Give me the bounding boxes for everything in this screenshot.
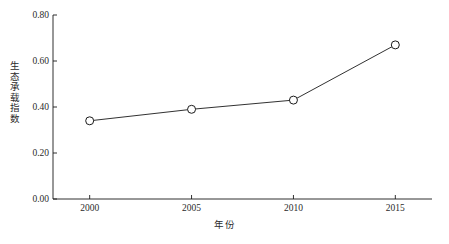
x-axis-tick-labels: 2000200520102015 [0, 203, 449, 217]
x-axis-tick-label: 2015 [386, 203, 405, 213]
chart-figure: 生态承载指数 0.000.200.400.600.80 200020052010… [0, 0, 449, 244]
data-series-line [90, 45, 396, 121]
x-axis-title: 年份 [0, 217, 449, 231]
data-point-marker [86, 117, 94, 125]
x-axis-tick-marks [90, 195, 396, 199]
data-point-marker [391, 41, 399, 49]
y-axis-tick-marks [53, 15, 57, 199]
x-axis-tick-label: 2010 [284, 203, 303, 213]
x-axis-tick-label: 2000 [80, 203, 99, 213]
x-axis-tick-label: 2005 [182, 203, 201, 213]
data-point-marker [289, 96, 297, 104]
axes-lines [53, 15, 432, 199]
data-point-marker [188, 105, 196, 113]
data-point-markers [86, 41, 400, 125]
